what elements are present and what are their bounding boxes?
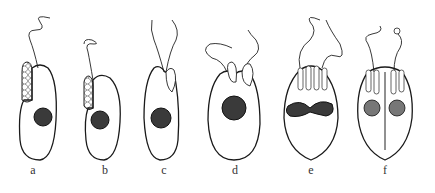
cell-division-figure bbox=[0, 0, 435, 193]
cell-b bbox=[84, 40, 120, 161]
cell-f bbox=[358, 26, 413, 160]
cell-e bbox=[284, 17, 342, 160]
cell-d bbox=[205, 30, 260, 160]
panel-label-d: d bbox=[232, 163, 238, 178]
panel-label-e: e bbox=[308, 163, 313, 178]
cell-a bbox=[20, 17, 57, 160]
panel-label-a: a bbox=[30, 163, 35, 178]
cell-c bbox=[144, 20, 179, 160]
panel-label-c: c bbox=[161, 163, 166, 178]
panel-label-f: f bbox=[383, 163, 387, 178]
panel-label-b: b bbox=[102, 163, 108, 178]
